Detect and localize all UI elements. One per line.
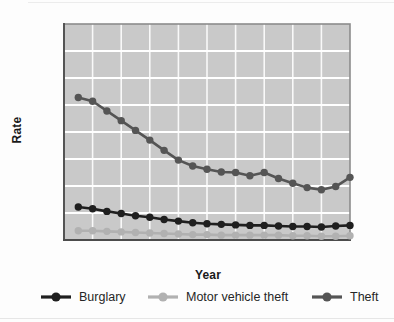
data-point: [318, 233, 325, 240]
data-point: [160, 230, 167, 237]
data-point: [89, 98, 96, 105]
data-point: [303, 223, 310, 230]
data-point: [146, 214, 153, 221]
data-point: [175, 230, 182, 237]
data-point: [118, 228, 125, 235]
data-point: [132, 212, 139, 219]
data-point: [132, 229, 139, 236]
data-point: [75, 94, 82, 101]
data-point: [160, 216, 167, 223]
chart-legend: Burglary Motor vehicle theft Theft: [0, 288, 394, 310]
data-point: [103, 107, 110, 114]
data-point: [218, 231, 225, 238]
data-point: [103, 208, 110, 215]
data-point: [189, 231, 196, 238]
data-point: [203, 220, 210, 227]
data-point: [303, 232, 310, 239]
data-point: [75, 227, 82, 234]
data-point: [346, 232, 353, 239]
line-chart-figure: Rate Year Burglary Motor vehicle theft: [0, 0, 394, 322]
legend-item-motor-vehicle-theft: Motor vehicle theft: [147, 288, 288, 306]
data-point: [346, 174, 353, 181]
data-point: [275, 231, 282, 238]
data-point: [89, 205, 96, 212]
data-point: [218, 221, 225, 228]
data-point: [132, 127, 139, 134]
data-point: [146, 229, 153, 236]
data-point: [261, 169, 268, 176]
data-point: [275, 175, 282, 182]
data-point: [332, 222, 339, 229]
crime-rate-line-chart: [0, 0, 394, 286]
data-point: [189, 162, 196, 169]
data-point: [175, 156, 182, 163]
legend-label-motor-vehicle-theft: Motor vehicle theft: [186, 290, 288, 304]
legend-item-theft: Theft: [311, 288, 379, 306]
data-point: [146, 136, 153, 143]
data-point: [160, 147, 167, 154]
data-point: [246, 231, 253, 238]
data-point: [118, 210, 125, 217]
motor-vehicle-theft-line-marker-icon: [147, 291, 179, 303]
legend-label-theft: Theft: [350, 290, 379, 304]
x-axis-title: Year: [58, 268, 358, 282]
data-point: [246, 172, 253, 179]
data-point: [175, 217, 182, 224]
data-point: [103, 228, 110, 235]
data-point: [289, 223, 296, 230]
data-point: [303, 184, 310, 191]
legend-label-burglary: Burglary: [79, 290, 126, 304]
data-point: [232, 221, 239, 228]
data-point: [118, 117, 125, 124]
data-point: [332, 183, 339, 190]
data-point: [332, 233, 339, 240]
data-point: [232, 169, 239, 176]
data-point: [218, 168, 225, 175]
data-point: [346, 222, 353, 229]
data-point: [203, 166, 210, 173]
data-point: [275, 222, 282, 229]
data-point: [89, 227, 96, 234]
data-point: [261, 222, 268, 229]
theft-line-marker-icon: [311, 291, 343, 303]
data-point: [289, 180, 296, 187]
data-point: [289, 232, 296, 239]
y-axis-title: Rate: [10, 100, 24, 160]
data-point: [318, 223, 325, 230]
data-point: [261, 231, 268, 238]
data-point: [75, 203, 82, 210]
figure-bottom-border: [0, 318, 394, 319]
burglary-line-marker-icon: [40, 291, 72, 303]
data-point: [232, 231, 239, 238]
data-point: [246, 222, 253, 229]
legend-item-burglary: Burglary: [40, 288, 126, 306]
data-point: [189, 219, 196, 226]
data-point: [203, 231, 210, 238]
data-point: [318, 186, 325, 193]
